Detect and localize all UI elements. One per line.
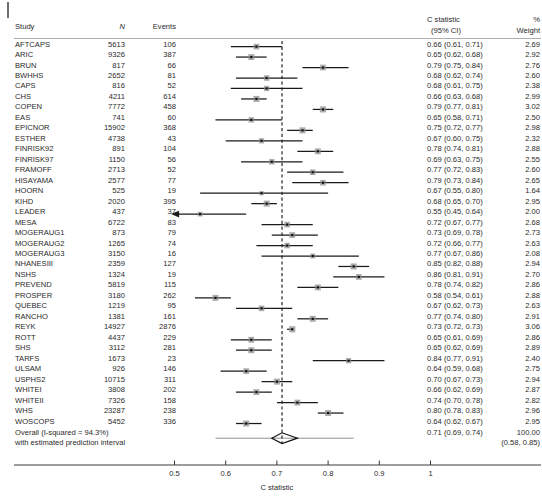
row-weight-value: 2.50: [0, 114, 540, 122]
row-weight-value: 2.82: [0, 397, 540, 405]
row-weight-value: 2.99: [0, 93, 540, 101]
row-weight-value: 2.65: [0, 177, 540, 185]
row-weight-value: 2.32: [0, 135, 540, 143]
row-weight-value: 2.95: [0, 418, 540, 426]
row-weight-value: 2.75: [0, 365, 540, 373]
row-weight-value: 2.94: [0, 376, 540, 384]
row-weight-value: 2.95: [0, 198, 540, 206]
row-weight-value: 2.68: [0, 219, 540, 227]
row-weight-value: 2.98: [0, 124, 540, 132]
axis-title-cstatistic: C statistic: [237, 483, 317, 492]
row-weight-value: 1.64: [0, 187, 540, 195]
row-weight-value: 2.38: [0, 82, 540, 90]
row-weight-value: 2.60: [0, 166, 540, 174]
axis-tick-label: 1: [391, 469, 471, 478]
row-weight-value: 2.87: [0, 386, 540, 394]
row-weight-value: 2.60: [0, 72, 540, 80]
column-header-weight: Weight: [0, 27, 540, 35]
overall-weight-value: 100.00: [0, 429, 540, 437]
column-header-percent: %: [0, 16, 540, 24]
row-weight-value: 2.63: [0, 240, 540, 248]
row-weight-value: 2.55: [0, 156, 540, 164]
row-weight-value: 2.40: [0, 355, 540, 363]
row-weight-value: 2.92: [0, 51, 540, 59]
row-weight-value: 2.91: [0, 313, 540, 321]
row-weight-value: 2.94: [0, 260, 540, 268]
row-weight-value: 2.63: [0, 302, 540, 310]
row-weight-value: 2.08: [0, 250, 540, 258]
row-weight-value: 2.70: [0, 271, 540, 279]
row-weight-value: 2.88: [0, 145, 540, 153]
row-weight-value: 2.76: [0, 62, 540, 70]
row-weight-value: 2.96: [0, 407, 540, 415]
row-weight-value: 3.06: [0, 323, 540, 331]
prediction-interval-value: (0.58, 0.85): [0, 439, 540, 447]
row-weight-value: 2.00: [0, 208, 540, 216]
row-weight-value: 2.86: [0, 281, 540, 289]
row-weight-value: 2.86: [0, 334, 540, 342]
row-weight-value: 2.69: [0, 41, 540, 49]
row-weight-value: 2.89: [0, 344, 540, 352]
row-weight-value: 2.73: [0, 229, 540, 237]
row-weight-value: 2.88: [0, 292, 540, 300]
row-weight-value: 3.02: [0, 103, 540, 111]
